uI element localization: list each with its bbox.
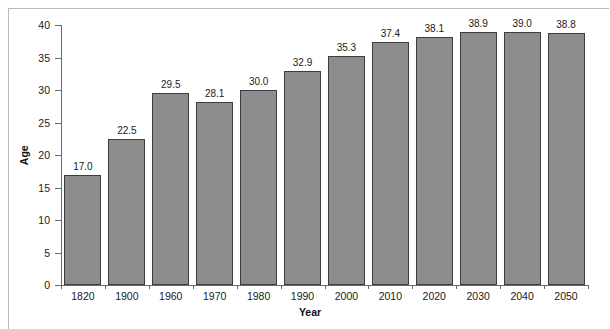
x-axis-tick-label: 1970 <box>193 291 237 302</box>
bar[interactable] <box>504 32 541 286</box>
x-axis-tick-label: 2050 <box>544 291 588 302</box>
x-axis-tick <box>193 285 194 289</box>
bar[interactable] <box>416 37 453 285</box>
x-axis-tick-label: 1900 <box>105 291 149 302</box>
x-axis-tick <box>281 285 282 289</box>
x-axis-tick-label: 1990 <box>281 291 325 302</box>
x-axis-tick <box>412 285 413 289</box>
x-axis-tick-label: 2020 <box>412 291 456 302</box>
bar-value-label: 29.5 <box>149 80 193 90</box>
x-axis-tick <box>61 285 62 289</box>
y-axis-tick-label: 10 <box>20 215 50 226</box>
x-axis-tick <box>368 285 369 289</box>
bar-value-label: 38.8 <box>544 20 588 30</box>
y-axis-tick <box>55 155 61 156</box>
x-axis-title: Year <box>0 307 610 318</box>
bar[interactable] <box>108 139 145 285</box>
y-axis-tick <box>55 188 61 189</box>
y-axis-tick <box>55 25 61 26</box>
bar-value-label: 38.1 <box>412 24 456 34</box>
bar[interactable] <box>64 175 101 286</box>
y-axis-tick-label-wrap: 5 <box>20 248 50 258</box>
x-axis-tick <box>237 285 238 289</box>
x-axis-tick <box>500 285 501 289</box>
bar-value-label: 39.0 <box>500 19 544 29</box>
bar[interactable] <box>196 102 233 285</box>
bar[interactable] <box>152 93 189 285</box>
y-axis-tick-label: 35 <box>20 53 50 64</box>
y-axis-tick-label-wrap: 10 <box>20 215 50 225</box>
y-axis-tick-label: 0 <box>20 280 50 291</box>
bar-value-label: 38.9 <box>456 19 500 29</box>
y-axis-tick-label-wrap: 40 <box>20 20 50 30</box>
y-axis-title: Age <box>19 125 30 185</box>
bar[interactable] <box>460 32 497 285</box>
x-axis-tick-label: 2040 <box>500 291 544 302</box>
x-axis-tick <box>456 285 457 289</box>
bar-value-label: 35.3 <box>324 43 368 53</box>
y-axis-tick-label: 40 <box>20 20 50 31</box>
y-axis-tick <box>55 253 61 254</box>
x-axis-tick <box>544 285 545 289</box>
bar-value-label: 32.9 <box>281 58 325 68</box>
y-axis-tick <box>55 90 61 91</box>
x-axis-tick <box>588 285 589 289</box>
bar-chart-plot-area: 0510152025303540 17.0182022.5190029.5196… <box>0 0 610 329</box>
y-axis-tick-label-wrap: 35 <box>20 53 50 63</box>
figure-canvas: 0510152025303540 17.0182022.5190029.5196… <box>0 0 610 329</box>
y-axis-tick <box>55 220 61 221</box>
y-axis-tick <box>55 123 61 124</box>
x-axis-tick-label: 1960 <box>149 291 193 302</box>
bar[interactable] <box>240 90 277 285</box>
x-axis-tick-label: 1820 <box>61 291 105 302</box>
bar[interactable] <box>372 42 409 285</box>
bar[interactable] <box>328 56 365 285</box>
y-axis-tick-label-wrap: 30 <box>20 85 50 95</box>
x-axis-tick <box>149 285 150 289</box>
y-axis-tick-label-wrap: 0 <box>20 280 50 290</box>
bar[interactable] <box>284 71 321 285</box>
bar[interactable] <box>548 33 585 285</box>
bar-value-label: 28.1 <box>193 89 237 99</box>
y-axis-tick-label: 30 <box>20 85 50 96</box>
x-axis-tick-label: 2010 <box>368 291 412 302</box>
bar-value-label: 30.0 <box>237 77 281 87</box>
x-axis-tick-label: 1980 <box>237 291 281 302</box>
x-axis-tick-label: 2000 <box>324 291 368 302</box>
y-axis-tick <box>55 58 61 59</box>
bar-value-label: 17.0 <box>61 162 105 172</box>
x-axis-tick <box>105 285 106 289</box>
y-axis-line <box>61 25 62 286</box>
y-axis-tick-label: 5 <box>20 248 50 259</box>
x-axis-tick-label: 2030 <box>456 291 500 302</box>
bar-value-label: 22.5 <box>105 126 149 136</box>
bar-value-label: 37.4 <box>368 29 412 39</box>
x-axis-tick <box>325 285 326 289</box>
